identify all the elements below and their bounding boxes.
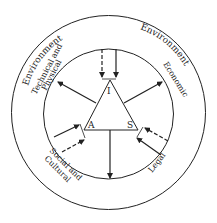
dashed-arrow-legal xyxy=(145,128,168,141)
solid-arrow-legal xyxy=(137,138,161,155)
label-legal: Legal xyxy=(146,151,167,175)
label-environment-right: Environment xyxy=(139,22,192,68)
environment-diagram: I A S Environment Environment Technical … xyxy=(0,0,217,223)
vertex-label-i: I xyxy=(107,86,111,96)
legal-bracket xyxy=(137,127,143,137)
vertex-label-a: A xyxy=(87,120,95,130)
dashed-arrow-social xyxy=(62,140,84,152)
social-bracket xyxy=(80,124,85,138)
solid-arrow-social xyxy=(54,125,79,137)
arrow-to-technical xyxy=(58,82,96,103)
arrow-to-economic xyxy=(124,82,162,103)
label-economic: Economic xyxy=(161,60,190,99)
vertex-label-s: S xyxy=(127,120,133,130)
